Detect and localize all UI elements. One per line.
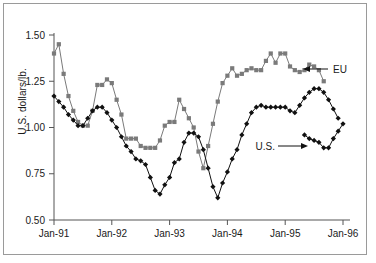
data-point-eu (254, 68, 258, 72)
data-point-eu (168, 120, 172, 124)
data-point-us-tail (336, 129, 341, 134)
data-point-us (326, 97, 331, 102)
data-point-us (268, 105, 273, 110)
data-point-us (259, 103, 264, 108)
data-point-eu (220, 81, 224, 85)
data-point-eu (216, 100, 220, 104)
data-point-eu (172, 120, 176, 124)
data-point-eu (115, 98, 119, 102)
data-point-eu (100, 83, 104, 87)
data-point-eu (119, 112, 123, 116)
data-point-eu (187, 116, 191, 120)
data-point-us (215, 195, 220, 200)
data-point-us (206, 166, 211, 171)
series-line-eu (54, 44, 324, 168)
data-point-us (114, 125, 119, 130)
data-point-us (234, 147, 239, 152)
data-point-eu (283, 51, 287, 55)
data-point-eu (201, 166, 205, 170)
y-tick-label: 0.50 (26, 215, 46, 226)
x-tick-label: Jan-96 (328, 228, 359, 239)
data-point-eu (66, 94, 70, 98)
data-point-us (263, 105, 268, 110)
x-tick-label: Jan-91 (39, 228, 70, 239)
data-point-eu (182, 107, 186, 111)
data-point-us (239, 132, 244, 137)
data-point-us (273, 105, 278, 110)
data-point-us (210, 184, 215, 189)
data-point-us (244, 121, 249, 126)
data-point-eu (307, 63, 311, 67)
data-point-eu (298, 70, 302, 74)
data-point-eu (192, 125, 196, 129)
data-point-us (220, 180, 225, 185)
annotation-us: U.S. (256, 141, 308, 152)
data-point-us (292, 110, 297, 115)
data-point-us (225, 169, 230, 174)
y-tick-label: 1.50 (26, 30, 46, 41)
data-point-us (119, 134, 124, 139)
data-point-us (133, 156, 138, 161)
data-point-us-tail (326, 145, 331, 150)
series-line-us (54, 89, 338, 198)
data-point-us (336, 116, 341, 121)
data-point-eu (264, 59, 268, 63)
data-point-eu (245, 68, 249, 72)
data-point-us (167, 175, 172, 180)
y-tick-label: 1.25 (26, 76, 46, 87)
data-point-eu (293, 68, 297, 72)
series-line-us-tail (304, 124, 343, 148)
data-point-eu (62, 72, 66, 76)
data-point-eu (225, 74, 229, 78)
eu-series-label: EU (333, 64, 347, 75)
data-point-eu (153, 146, 157, 150)
data-point-us (201, 147, 206, 152)
us-arrow-head-icon (301, 143, 308, 149)
data-point-us (186, 130, 191, 135)
data-point-eu (57, 42, 61, 46)
data-point-eu (312, 64, 316, 68)
data-series-group (51, 42, 345, 200)
us-series-label: U.S. (256, 141, 275, 152)
line-chart: 0.500.751.001.251.50 Jan-91Jan-92Jan-93J… (0, 0, 376, 263)
x-tick-label: Jan-95 (270, 228, 301, 239)
x-tick-label: Jan-92 (97, 228, 128, 239)
data-point-eu (148, 146, 152, 150)
data-point-eu (177, 98, 181, 102)
y-tick-label: 1.00 (26, 122, 46, 133)
data-point-us-tail (331, 136, 336, 141)
data-point-eu (206, 144, 210, 148)
data-point-eu (52, 51, 56, 55)
data-point-eu (240, 72, 244, 76)
data-point-us (181, 140, 186, 145)
data-point-eu (163, 124, 167, 128)
data-point-eu (139, 144, 143, 148)
x-tick-label: Jan-93 (154, 228, 185, 239)
data-point-us (331, 106, 336, 111)
data-point-eu (230, 66, 234, 70)
data-point-eu (235, 74, 239, 78)
data-point-eu (269, 51, 273, 55)
data-point-us (109, 118, 114, 123)
data-point-eu (134, 137, 138, 141)
data-point-eu (86, 124, 90, 128)
data-point-eu (143, 146, 147, 150)
data-point-us (297, 103, 302, 108)
data-point-eu (95, 83, 99, 87)
data-point-eu (249, 66, 253, 70)
x-tick-label: Jan-94 (212, 228, 243, 239)
data-point-eu (196, 149, 200, 153)
data-point-us-tail (312, 138, 317, 143)
data-point-us (162, 182, 167, 187)
data-point-eu (288, 64, 292, 68)
y-tick-label: 0.75 (26, 168, 46, 179)
x-axis-ticks: Jan-91Jan-92Jan-93Jan-94Jan-95Jan-96 (39, 220, 359, 239)
data-point-eu (129, 137, 133, 141)
data-point-eu (211, 122, 215, 126)
data-point-us (230, 156, 235, 161)
data-point-us (148, 175, 153, 180)
y-axis-ticks: 0.500.751.001.251.50 (26, 30, 54, 226)
data-point-eu (124, 137, 128, 141)
data-point-eu (322, 79, 326, 83)
data-point-eu (278, 51, 282, 55)
